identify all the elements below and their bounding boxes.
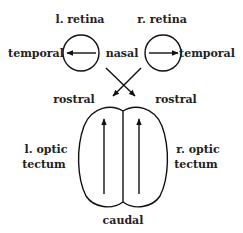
nasal-label: nasal	[106, 47, 139, 60]
optic-tectum	[79, 107, 168, 206]
right-tectum-label-line1: r. optic	[176, 143, 220, 156]
rostral-left-label: rostral	[53, 93, 95, 106]
temporal-left-label: temporal	[8, 47, 64, 60]
retinotectal-diagram: l. retina r. retina temporal nasal tempo…	[0, 0, 243, 233]
left-retina-projection	[106, 68, 135, 96]
right-tectum-label-line2: tectum	[174, 158, 218, 171]
rostral-right-label: rostral	[155, 93, 197, 106]
right-retina	[145, 35, 181, 71]
left-retina	[63, 35, 99, 71]
right-retina-label: r. retina	[137, 13, 187, 26]
right-tectum-outline	[123, 107, 167, 206]
left-retina-label: l. retina	[55, 13, 104, 26]
right-retina-projection	[113, 68, 141, 96]
left-tectum-label-line2: tectum	[22, 158, 66, 171]
temporal-right-label: temporal	[179, 47, 235, 60]
caudal-label: caudal	[103, 214, 144, 227]
left-tectum-outline	[79, 107, 123, 206]
left-tectum-label-line1: l. optic	[25, 143, 68, 156]
